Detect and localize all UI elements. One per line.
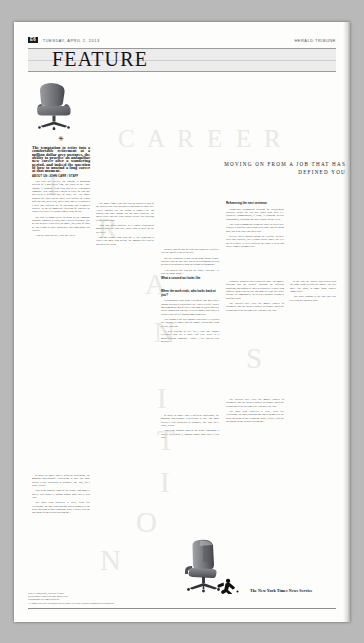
body-paragraph: The ones who regretted it were, with few… bbox=[226, 410, 284, 423]
news-service-logo-text: The New York Times News Service bbox=[250, 588, 312, 593]
body-paragraph: In the end, the people interviewed said … bbox=[290, 280, 336, 293]
column-1-continued: In order to move into a different profes… bbox=[32, 474, 90, 517]
body-paragraph: And what remains is the part that was ne… bbox=[290, 295, 336, 302]
watermark-letter-c: C bbox=[118, 126, 135, 151]
body-paragraph: That is the bargain. Most of the people … bbox=[32, 489, 90, 499]
body-paragraph: They also recommend telling the story in… bbox=[226, 223, 284, 233]
column-3: When the work ends, who looks back at yo… bbox=[161, 290, 219, 345]
column-6: In the end, the people interviewed said … bbox=[290, 280, 336, 304]
page-number: E6 bbox=[28, 37, 38, 44]
body-paragraph: That is the bargain. Most of the people … bbox=[161, 429, 219, 439]
body-paragraph: Financial planners add a practical note:… bbox=[226, 280, 284, 300]
body-paragraph: Last year Bill Drew's, the Boston, a man… bbox=[32, 180, 90, 213]
folio: E6 TUESDAY, APRIL 2, 2013 HERALD TRIBUNE bbox=[28, 36, 336, 44]
column-2b: identity, and the loss of a job that sup… bbox=[161, 248, 219, 283]
subhead: What a second act looks like bbox=[161, 277, 219, 281]
body-paragraph: That loss often surfaces as a vague rest… bbox=[96, 224, 154, 234]
runner-logo-icon bbox=[217, 578, 239, 594]
body-paragraph: Psychologists who study retirement and m… bbox=[161, 299, 219, 316]
watermark-letter-e2: E bbox=[236, 126, 251, 151]
column-1: ✳ The temptation to retire into a comfor… bbox=[32, 136, 90, 240]
body-paragraph: The shift is almost never as quick as th… bbox=[32, 216, 90, 233]
watermark-letter-o: O bbox=[136, 508, 157, 537]
body-paragraph: identity, and the loss of a job that sup… bbox=[161, 248, 219, 255]
body-paragraph: Counselors recommend building the replac… bbox=[226, 208, 284, 221]
column-4: Rehearsing the next sentence Counselors … bbox=[226, 202, 284, 250]
watermark-letter-e1: E bbox=[207, 126, 222, 151]
section-title: FEATURE bbox=[52, 48, 148, 71]
body-paragraph: In order to move into a different profes… bbox=[161, 414, 219, 427]
body-paragraph: For the people who plan for it, the tran… bbox=[96, 236, 154, 246]
column-7: In order to move into a different profes… bbox=[161, 414, 219, 441]
watermark-letter-s: S bbox=[246, 344, 262, 373]
body-paragraph: The advised rule: treat the money projec… bbox=[226, 302, 284, 312]
folio-section: HERALD TRIBUNE bbox=[294, 38, 336, 43]
body-paragraph: "The hardest part was not the work," sai… bbox=[161, 269, 219, 276]
watermark-letter-i2: I bbox=[160, 468, 170, 497]
body-paragraph: In order to move into a different profes… bbox=[32, 474, 90, 487]
credit-line: All rights reserved. Reproduction in who… bbox=[28, 602, 258, 605]
subhead: Rehearsing the next sentence bbox=[226, 202, 284, 206]
ornament-asterisk: ✳ bbox=[32, 136, 90, 143]
lede-paragraph: The temptation to retire into a comforta… bbox=[32, 146, 90, 173]
body-paragraph: The move from a job that was an identity… bbox=[96, 202, 154, 222]
column-8: The advised rule: treat the money projec… bbox=[226, 398, 284, 425]
section-masthead: FEATURE bbox=[28, 48, 336, 72]
body-paragraph: The advised rule: treat the money projec… bbox=[226, 398, 284, 408]
footer-rule bbox=[28, 608, 336, 609]
watermark-letter-a: A bbox=[147, 126, 165, 151]
folio-date: TUESDAY, APRIL 2, 2013 bbox=[43, 38, 100, 43]
watermark-letter-r: R bbox=[177, 126, 194, 151]
subhead: When the work ends, who looks back at yo… bbox=[161, 290, 219, 297]
watermark-letter-r2: R bbox=[264, 126, 281, 151]
body-paragraph: Several career coaches assign the exerci… bbox=[226, 235, 284, 248]
body-paragraph: The ones who regretted it were, with few… bbox=[32, 501, 90, 514]
body-paragraph: "I kept waiting to feel free," said one … bbox=[161, 330, 219, 343]
newspaper-page: E6 TUESDAY, APRIL 2, 2013 HERALD TRIBUNE… bbox=[14, 22, 350, 622]
watermark-letter-n2: N bbox=[100, 546, 121, 575]
body-paragraph: But the transition is also an opening. M… bbox=[161, 257, 219, 267]
byline: ABOUT US: JOHN CARR / STAFF bbox=[32, 175, 90, 178]
watermark-letter-i1: I bbox=[157, 384, 167, 413]
body-paragraph: "You are who you are," said Mr. Drew. bbox=[32, 234, 90, 237]
column-2: The move from a job that was an identity… bbox=[96, 202, 154, 248]
headline-deck: MOVING ON FROM A JOB THAT HAS DEFINED YO… bbox=[210, 160, 346, 177]
column-5: Financial planners add a practical note:… bbox=[226, 280, 284, 314]
office-chair-photo-top bbox=[32, 80, 76, 130]
body-paragraph: The trough is the part nobody advertises… bbox=[161, 318, 219, 328]
